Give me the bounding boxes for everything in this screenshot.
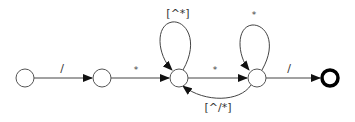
state-machine-diagram: / * [^*] * * [^/*] / [0,0,355,122]
transition-label: / [287,62,291,75]
transition-s0-s1: / [34,62,92,78]
transition-label: * [134,65,139,75]
transition-s2-self-loop: [^*] [160,7,191,70]
transition-label: [^/*] [204,101,231,114]
state-s1 [93,69,111,87]
state-s2 [170,69,188,87]
state-s0 [16,69,34,87]
transition-label: * [252,10,257,20]
transition-label: * [213,65,218,75]
transition-label: [^*] [166,7,189,20]
transition-label: / [60,62,64,75]
state-s4-final [322,70,338,86]
transition-s1-s2: * [111,65,169,78]
transition-s2-s3: * [188,65,247,78]
transition-s3-self-loop: * [240,10,269,70]
transition-s3-s4: / [266,62,320,78]
transition-s3-s2: [^/*] [183,85,251,114]
state-s3 [248,69,266,87]
